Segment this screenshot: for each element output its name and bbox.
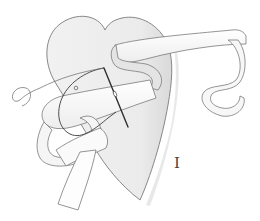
heart-ribbon-illustration [0, 0, 260, 221]
ribbon-right-curl [202, 40, 245, 116]
step-label: I [174, 154, 180, 172]
